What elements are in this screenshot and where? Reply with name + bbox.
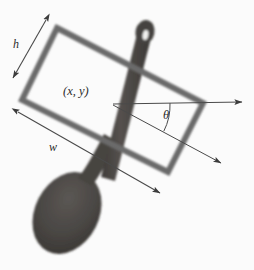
width-label: w: [49, 140, 57, 155]
diagram-figure: h w (x, y) θ: [0, 0, 254, 270]
angle-label: θ: [163, 108, 169, 123]
diagram-canvas: [0, 0, 254, 270]
height-label: h: [13, 37, 19, 52]
center-coordinate-label: (x, y): [63, 84, 89, 99]
